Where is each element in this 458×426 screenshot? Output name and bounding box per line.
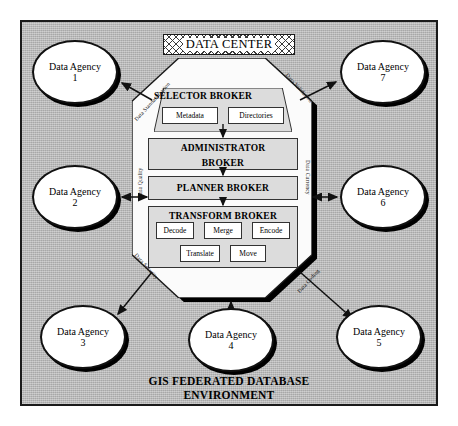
planner-broker: PLANNER BROKER: [148, 176, 298, 200]
caption-line-1: GIS FEDERATED DATABASE: [22, 374, 436, 388]
agency-body: Data Agency 5: [336, 305, 422, 369]
data-center-banner: DATA CENTER: [163, 34, 295, 55]
agency-number: 2: [73, 197, 78, 209]
move-box: Move: [230, 245, 266, 262]
data-agency-node-6[interactable]: Data Agency 6: [340, 165, 426, 229]
diagram-canvas: DATA CENTER SELECTOR BROKER Metadata Dir…: [0, 0, 458, 426]
agency-number: 5: [377, 337, 382, 349]
agency-body: Data Agency 3: [40, 305, 126, 369]
agency-body: Data Agency 2: [32, 165, 118, 229]
data-agency-node-4[interactable]: Data Agency 4: [188, 308, 274, 372]
agency-number: 4: [229, 340, 234, 352]
metadata-box: Metadata: [162, 107, 218, 124]
agency-number: 3: [81, 337, 86, 349]
directories-box: Directories: [228, 107, 284, 124]
agency-label: Data Agency: [57, 326, 109, 338]
agency-label: Data Agency: [205, 329, 257, 341]
agency-body: Data Agency 4: [188, 308, 274, 372]
planner-broker-title: PLANNER BROKER: [149, 183, 297, 194]
edge-label-data-quality: Data Quality: [137, 167, 143, 198]
agency-label: Data Agency: [357, 61, 409, 73]
data-agency-node-5[interactable]: Data Agency 5: [336, 305, 422, 369]
agency-body: Data Agency 6: [340, 165, 426, 229]
decode-box: Decode: [156, 222, 194, 239]
caption-line-2: ENVIRONMENT: [22, 388, 436, 402]
edge-label-data-currency: Data Currency: [305, 160, 311, 195]
data-agency-node-1[interactable]: Data Agency 1: [32, 40, 118, 104]
data-agency-node-2[interactable]: Data Agency 2: [32, 165, 118, 229]
administrator-broker-title-line1: ADMINISTRATOR: [149, 143, 297, 154]
agency-number: 1: [73, 72, 78, 84]
selector-broker-title: SELECTOR BROKER: [154, 91, 292, 102]
data-center-banner-label: DATA CENTER: [183, 38, 276, 51]
agency-label: Data Agency: [353, 326, 405, 338]
data-agency-node-7[interactable]: Data Agency 7: [340, 40, 426, 104]
agency-label: Data Agency: [357, 186, 409, 198]
transform-broker-title: TRANSFORM BROKER: [149, 211, 297, 222]
encode-box: Encode: [252, 222, 290, 239]
agency-body: Data Agency 7: [340, 40, 426, 104]
translate-box: Translate: [180, 245, 220, 262]
agency-body: Data Agency 1: [32, 40, 118, 104]
data-agency-node-3[interactable]: Data Agency 3: [40, 305, 126, 369]
merge-box: Merge: [204, 222, 242, 239]
agency-label: Data Agency: [49, 61, 101, 73]
administrator-broker-title-line2: BROKER: [149, 158, 297, 169]
agency-number: 7: [381, 72, 386, 84]
agency-number: 6: [381, 197, 386, 209]
diagram-caption: GIS FEDERATED DATABASE ENVIRONMENT: [22, 374, 436, 403]
administrator-broker: ADMINISTRATOR BROKER: [148, 138, 298, 170]
agency-label: Data Agency: [49, 186, 101, 198]
